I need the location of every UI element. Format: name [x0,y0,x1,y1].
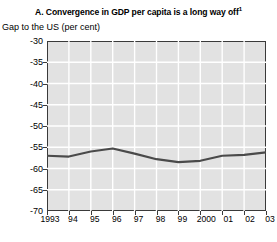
y-tick-label: -45 [0,101,43,110]
chart-figure: A. Convergence in GDP per capita is a lo… [0,0,277,242]
x-tick-label: 94 [68,214,78,224]
y-tick-label: -60 [0,165,43,174]
x-tick-label: 01 [223,214,233,224]
y-tick-label: -50 [0,122,43,131]
y-tick-label: -40 [0,80,43,89]
x-tick-label: 1993 [40,214,59,224]
x-tick-label: 95 [90,214,100,224]
y-tick-label: -55 [0,143,43,152]
y-tick-label: -35 [0,58,43,67]
y-axis-labels: -30 -35 -40 -45 -50 -55 -60 -65 -70 [0,33,43,219]
chart-title-footnote-marker: 1 [239,6,242,12]
x-tick-label: 03 [265,214,275,224]
chart-title: A. Convergence in GDP per capita is a lo… [0,4,277,18]
x-tick-label: 96 [112,214,122,224]
y-tick-label: -65 [0,186,43,195]
chart-title-text: A. Convergence in GDP per capita is a lo… [35,7,239,17]
x-axis-labels: 1993 94 95 96 97 98 99 2000 01 02 03 [0,214,277,230]
plot-area [47,41,266,211]
x-tick-label: 2000 [197,214,216,224]
plot-svg [47,41,266,211]
x-tick-label: 97 [134,214,144,224]
chart-subtitle: Gap to the US (per cent) [2,22,100,33]
x-tick-label: 02 [245,214,255,224]
y-tick-label: -30 [0,37,43,46]
x-tick-label: 98 [156,214,166,224]
x-tick-label: 99 [178,214,188,224]
